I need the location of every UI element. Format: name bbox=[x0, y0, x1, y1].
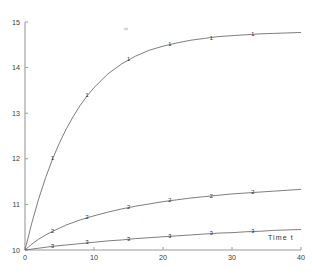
data-series: 111111 bbox=[25, 31, 301, 250]
y-tick-label: 14 bbox=[12, 63, 20, 72]
y-tick-group: 101112131415 bbox=[12, 18, 28, 255]
series-marker-label: 1 bbox=[51, 155, 54, 161]
series-marker-label: 2 bbox=[51, 228, 54, 234]
y-tick-label: 10 bbox=[12, 246, 20, 255]
series-marker-label: 1 bbox=[127, 56, 130, 62]
artifact-speck bbox=[124, 28, 129, 31]
series-curve bbox=[25, 229, 301, 250]
series-marker-label: 2 bbox=[168, 197, 171, 203]
series-marker-label: 1 bbox=[168, 41, 171, 47]
series-marker-label: 3 bbox=[127, 236, 130, 242]
series-curve bbox=[25, 32, 301, 250]
series-marker-label: 1 bbox=[210, 35, 213, 41]
x-axis: 010203040 bbox=[23, 247, 305, 262]
series-marker-label: 3 bbox=[251, 228, 254, 234]
series-marker-label: 2 bbox=[210, 193, 213, 199]
series-marker-label: 1 bbox=[251, 31, 254, 37]
y-tick-label: 12 bbox=[12, 154, 20, 163]
series-marker-label: 3 bbox=[86, 239, 89, 245]
series-marker-label: 3 bbox=[168, 233, 171, 239]
series-group: 111111222222333333 bbox=[25, 31, 301, 250]
data-series: 222222 bbox=[25, 189, 301, 250]
chart-container: 101112131415 010203040 11111122222233333… bbox=[0, 0, 312, 276]
series-marker-label: 2 bbox=[127, 204, 130, 210]
series-marker-label: 2 bbox=[86, 214, 89, 220]
x-tick-label: 0 bbox=[23, 253, 27, 262]
x-axis-title: Time t bbox=[268, 234, 294, 241]
series-curve bbox=[25, 189, 301, 250]
x-tick-label: 40 bbox=[297, 253, 305, 262]
y-tick-label: 15 bbox=[12, 18, 20, 27]
x-tick-group: 010203040 bbox=[23, 247, 305, 262]
x-tick-label: 10 bbox=[90, 253, 98, 262]
series-marker-label: 2 bbox=[251, 189, 254, 195]
line-chart: 101112131415 010203040 11111122222233333… bbox=[0, 0, 312, 276]
y-tick-label: 11 bbox=[13, 200, 20, 209]
series-marker-label: 1 bbox=[86, 92, 89, 98]
series-marker-label: 3 bbox=[210, 230, 213, 236]
y-tick-label: 13 bbox=[12, 109, 20, 118]
series-marker-label: 3 bbox=[51, 243, 54, 249]
x-tick-label: 30 bbox=[228, 253, 236, 262]
x-tick-label: 20 bbox=[159, 253, 167, 262]
data-series: 333333 bbox=[25, 228, 301, 250]
y-axis: 101112131415 bbox=[12, 18, 28, 255]
